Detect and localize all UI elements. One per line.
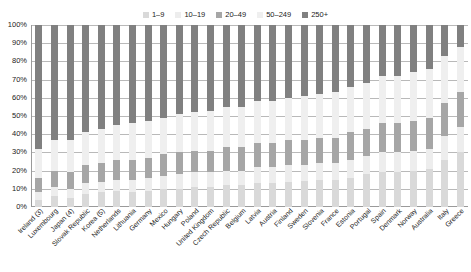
bar-segment [457, 152, 464, 207]
bar-slot[interactable] [93, 25, 109, 207]
bar-slot[interactable] [125, 25, 141, 207]
legend-item-label: 1–9 [152, 11, 165, 19]
stacked-bar[interactable] [160, 25, 167, 207]
bar-slot[interactable] [452, 25, 468, 207]
bar-segment [285, 25, 292, 98]
bar-segment [223, 171, 230, 186]
bar-segment [35, 25, 42, 149]
bar-segment [347, 178, 354, 207]
bar-segment [254, 143, 261, 167]
legend-swatch-icon [143, 12, 149, 18]
bar-slot[interactable] [250, 25, 266, 207]
bar-slot[interactable] [421, 25, 437, 207]
bar-slot[interactable] [374, 25, 390, 207]
bars-container [31, 25, 468, 207]
bar-segment [67, 25, 74, 140]
stacked-bar[interactable] [363, 25, 370, 207]
bar-slot[interactable] [47, 25, 63, 207]
stacked-bar[interactable] [426, 25, 433, 207]
bar-segment [254, 25, 261, 101]
bar-segment [176, 25, 183, 114]
x-axis: Ireland (3)LuxembourgJapan (4)Slovak Rep… [31, 207, 468, 272]
stacked-bar[interactable] [269, 25, 276, 207]
stacked-bar[interactable] [51, 25, 58, 207]
bar-slot[interactable] [62, 25, 78, 207]
bar-slot[interactable] [156, 25, 172, 207]
bar-segment [145, 191, 152, 207]
bar-segment [301, 181, 308, 206]
bar-segment [238, 185, 245, 207]
bar-segment [269, 143, 276, 167]
stacked-bar[interactable] [316, 25, 323, 207]
bar-slot[interactable] [265, 25, 281, 207]
bar-slot[interactable] [31, 25, 47, 207]
stacked-bar[interactable] [301, 25, 308, 207]
stacked-bar[interactable] [129, 25, 136, 207]
bar-segment [394, 123, 401, 152]
bar-slot[interactable] [78, 25, 94, 207]
bar-segment [426, 118, 433, 149]
y-axis-tick-label: 100% [8, 21, 27, 29]
legend-item[interactable]: 250+ [302, 11, 328, 19]
bar-segment [379, 123, 386, 152]
bar-segment [285, 165, 292, 181]
bar-slot[interactable] [234, 25, 250, 207]
legend-item[interactable]: 10–19 [175, 11, 205, 19]
stacked-bar[interactable] [113, 25, 120, 207]
bar-segment [441, 160, 448, 207]
stacked-bar[interactable] [98, 25, 105, 207]
bar-slot[interactable] [203, 25, 219, 207]
bar-slot[interactable] [343, 25, 359, 207]
bar-segment [254, 183, 261, 207]
bar-slot[interactable] [437, 25, 453, 207]
stacked-bar[interactable] [67, 25, 74, 207]
bar-segment [35, 178, 42, 193]
bar-segment [426, 25, 433, 69]
bar-slot[interactable] [187, 25, 203, 207]
bar-slot[interactable] [312, 25, 328, 207]
stacked-bar[interactable] [379, 25, 386, 207]
bar-slot[interactable] [328, 25, 344, 207]
bar-slot[interactable] [281, 25, 297, 207]
stacked-bar[interactable] [176, 25, 183, 207]
bar-segment [285, 98, 292, 140]
stacked-bar[interactable] [35, 25, 42, 207]
bar-segment [301, 25, 308, 96]
legend-item[interactable]: 1–9 [143, 11, 165, 19]
stacked-bar[interactable] [441, 25, 448, 207]
stacked-bar[interactable] [347, 25, 354, 207]
bar-slot[interactable] [296, 25, 312, 207]
bar-segment [301, 96, 308, 140]
bar-slot[interactable] [109, 25, 125, 207]
bar-slot[interactable] [359, 25, 375, 207]
bar-slot[interactable] [171, 25, 187, 207]
stacked-bar[interactable] [223, 25, 230, 207]
stacked-bar[interactable] [457, 25, 464, 207]
stacked-bar[interactable] [82, 25, 89, 207]
bar-segment [129, 180, 136, 193]
bar-segment [285, 140, 292, 165]
legend-swatch-icon [257, 12, 263, 18]
bar-segment [145, 25, 152, 121]
stacked-bar[interactable] [394, 25, 401, 207]
stacked-bar[interactable] [332, 25, 339, 207]
bar-slot[interactable] [218, 25, 234, 207]
bar-segment [129, 25, 136, 123]
stacked-bar[interactable] [238, 25, 245, 207]
bar-slot[interactable] [140, 25, 156, 207]
bar-segment [394, 76, 401, 123]
bar-segment [254, 167, 261, 183]
stacked-bar[interactable] [254, 25, 261, 207]
bar-segment [35, 149, 42, 178]
stacked-bar[interactable] [207, 25, 214, 207]
stacked-bar[interactable] [285, 25, 292, 207]
y-axis-tick-label: 50% [12, 112, 27, 120]
bar-segment [191, 25, 198, 112]
bar-slot[interactable] [406, 25, 422, 207]
stacked-bar[interactable] [191, 25, 198, 207]
stacked-bar[interactable] [410, 25, 417, 207]
legend-item[interactable]: 50–249 [257, 11, 291, 19]
legend-item[interactable]: 20–49 [216, 11, 246, 19]
bar-slot[interactable] [390, 25, 406, 207]
stacked-bar[interactable] [145, 25, 152, 207]
